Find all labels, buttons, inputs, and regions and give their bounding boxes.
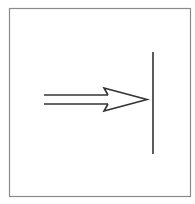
diagram-canvas <box>0 0 195 204</box>
frame <box>10 9 191 197</box>
